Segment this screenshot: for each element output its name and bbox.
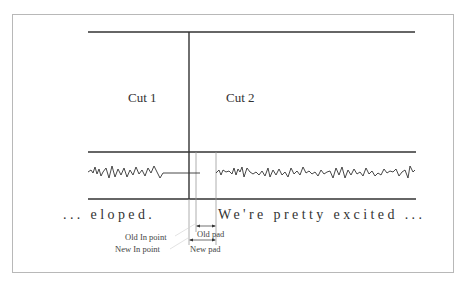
new-pad-arrowhead-left <box>189 239 193 242</box>
new-in-point-label: New In point <box>115 245 160 254</box>
waveform-cut1 <box>88 166 200 178</box>
waveform-cut2 <box>216 166 415 178</box>
old-pad-arrowhead-left <box>196 225 200 228</box>
transcript-before: ... eloped. <box>63 208 155 222</box>
transcript-after: We're pretty excited ... <box>218 208 425 222</box>
old-in-point-label: Old In point <box>125 233 167 242</box>
new-in-point-leader <box>170 238 188 249</box>
cut-2-label: Cut 2 <box>226 91 255 104</box>
new-pad-label: New pad <box>190 245 220 254</box>
old-pad-label: Old pad <box>197 230 224 239</box>
cut-1-label: Cut 1 <box>128 91 157 104</box>
edit-diagram <box>0 0 466 284</box>
old-pad-arrowhead-right <box>212 225 216 228</box>
old-in-point-leader <box>175 224 195 236</box>
